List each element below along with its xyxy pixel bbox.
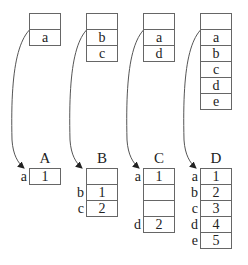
table-D-key: e <box>186 233 198 248</box>
table-C-key: a <box>129 169 141 184</box>
table-C-value <box>143 200 175 217</box>
table-D-key: a <box>186 169 198 184</box>
table-D-value: 5 <box>200 232 232 249</box>
table-D-key: b <box>186 185 198 200</box>
table-C-value <box>143 184 175 201</box>
table-D-value: 4 <box>200 216 232 233</box>
table-B-title: B <box>86 150 118 167</box>
table-A-title: A <box>29 150 61 167</box>
shape-D-header-cell: a <box>200 29 232 46</box>
table-B-value <box>86 168 118 185</box>
table-A-value: 1 <box>29 168 61 185</box>
table-D-key: d <box>186 217 198 232</box>
table-C-key: d <box>129 217 141 232</box>
shape-D-header-cell: b <box>200 45 232 62</box>
table-D-title: D <box>200 150 232 167</box>
shape-D-header-cell <box>200 13 232 30</box>
table-A-key: a <box>15 169 27 184</box>
table-B-key: c <box>72 201 84 216</box>
shape-D-header-cell: c <box>200 61 232 78</box>
table-C-title: C <box>143 150 175 167</box>
table-B-value: 2 <box>86 200 118 217</box>
shape-D-header-cell: d <box>200 77 232 94</box>
shape-C-header-cell: a <box>143 29 175 46</box>
shape-D-header-cell: e <box>200 93 232 110</box>
shape-B-header-cell: b <box>86 29 118 46</box>
shape-B-header-cell: c <box>86 45 118 62</box>
table-C-value: 1 <box>143 168 175 185</box>
shape-C-header-cell: d <box>143 45 175 62</box>
shape-A-header-cell: a <box>29 29 61 46</box>
table-D-key: c <box>186 201 198 216</box>
table-B-value: 1 <box>86 184 118 201</box>
shape-B-header-cell <box>86 13 118 30</box>
table-D-value: 3 <box>200 200 232 217</box>
table-D-value: 2 <box>200 184 232 201</box>
shape-A-header-cell <box>29 13 61 30</box>
table-B-key: b <box>72 185 84 200</box>
shape-C-header-cell <box>143 13 175 30</box>
table-D-value: 1 <box>200 168 232 185</box>
table-C-value: 2 <box>143 216 175 233</box>
